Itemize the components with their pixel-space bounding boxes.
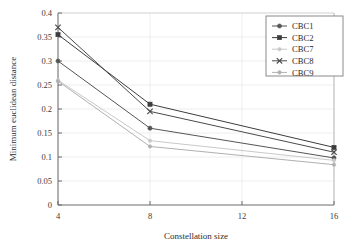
y-tick-label: 0.2 <box>41 104 52 114</box>
marker-dot <box>148 139 152 143</box>
y-tick-label: 0.15 <box>37 128 52 138</box>
legend-label: CBC8 <box>292 56 314 66</box>
y-tick-label: 0.1 <box>41 152 52 162</box>
x-tick-label: 16 <box>330 211 339 221</box>
marker-circle <box>56 59 60 63</box>
y-tick-label: 0.25 <box>37 80 52 90</box>
y-tick-label: 0.3 <box>41 56 52 66</box>
y-tick-label: 0.35 <box>37 32 52 42</box>
legend-label: CBC2 <box>292 33 314 43</box>
marker-square <box>332 145 336 149</box>
marker-dot <box>332 163 336 167</box>
y-tick-label: 0 <box>48 200 52 210</box>
x-tick-label: 12 <box>238 211 247 221</box>
marker-dot <box>278 47 282 51</box>
legend-label: CBC9 <box>292 68 314 78</box>
marker-square <box>277 36 281 40</box>
minimum-euclidean-distance-line-chart: 00.050.10.150.20.250.30.350.4 481216 Con… <box>0 0 355 247</box>
y-tick-label: 0.4 <box>41 8 52 18</box>
marker-circle <box>277 24 281 28</box>
y-axis-title: Minimum euclidean distance <box>8 57 18 161</box>
marker-dot <box>148 145 152 149</box>
legend-label: CBC1 <box>292 21 314 31</box>
marker-square <box>148 102 152 106</box>
marker-dot <box>56 79 60 83</box>
marker-dot <box>332 159 336 163</box>
x-axis-title: Constellation size <box>164 231 228 241</box>
legend[interactable]: CBC1CBC2CBC7CBC8CBC9 <box>266 16 343 78</box>
y-tick-label: 0.05 <box>37 176 52 186</box>
legend-label: CBC7 <box>292 44 314 54</box>
marker-dot <box>278 71 282 75</box>
marker-square <box>56 33 60 37</box>
chart-container: 00.050.10.150.20.250.30.350.4 481216 Con… <box>0 0 355 247</box>
marker-circle <box>148 126 152 130</box>
x-tick-label: 8 <box>148 211 152 221</box>
